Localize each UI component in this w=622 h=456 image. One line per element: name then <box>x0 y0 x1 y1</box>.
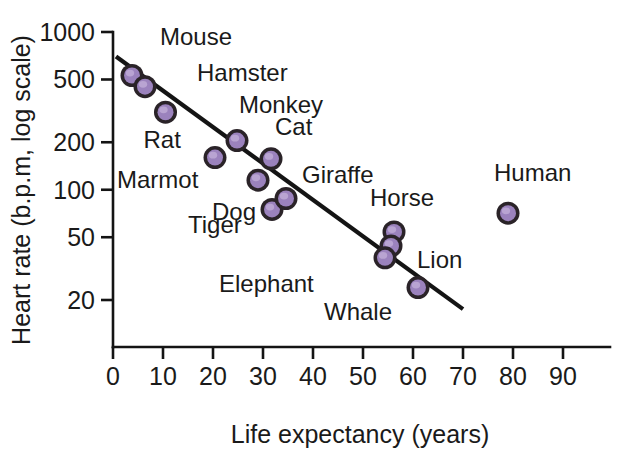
y-tick-label-500: 500 <box>53 65 95 93</box>
point-label-lion: Lion <box>417 246 462 273</box>
point-label-rat: Rat <box>144 126 182 153</box>
marker-highlight <box>126 70 134 77</box>
x-axis-title: Life expectancy (years) <box>231 420 489 448</box>
point-label-horse: Horse <box>370 184 434 211</box>
marker-highlight <box>280 193 288 200</box>
marker-highlight <box>502 207 510 214</box>
data-point-marmot <box>204 146 227 169</box>
plot-canvas: 10005002001005020 0102030405060708090 Mo… <box>0 0 622 456</box>
marker-highlight <box>231 135 239 142</box>
data-point-elephant <box>374 246 397 269</box>
data-point-dog <box>247 169 270 192</box>
y-tick-label-20: 20 <box>67 286 95 314</box>
point-label-human: Human <box>494 159 571 186</box>
y-tick-label-1000: 1000 <box>39 18 95 46</box>
x-axis-tick-labels: 0102030405060708090 <box>106 362 577 390</box>
marker-highlight <box>252 174 260 181</box>
x-tick-label-80: 80 <box>499 362 527 390</box>
marker-highlight <box>412 282 420 289</box>
point-label-whale: Whale <box>324 298 392 325</box>
x-tick-label-70: 70 <box>449 362 477 390</box>
x-tick-label-0: 0 <box>106 362 120 390</box>
y-axis-title: Heart rate (b.p.m, log scale) <box>7 35 35 345</box>
data-point-cat <box>260 147 283 170</box>
marker-highlight <box>265 153 273 160</box>
point-label-tiger: Tiger <box>188 211 242 238</box>
y-axis-tick-labels: 10005002001005020 <box>39 18 95 314</box>
y-tick-label-50: 50 <box>67 223 95 251</box>
scatter-chart-figure: 10005002001005020 0102030405060708090 Mo… <box>0 0 622 456</box>
data-point-monkey <box>226 129 249 152</box>
marker-highlight <box>379 252 387 259</box>
y-tick-label-100: 100 <box>53 176 95 204</box>
marker-highlight <box>139 81 147 88</box>
point-label-elephant: Elephant <box>219 270 314 297</box>
data-point-human <box>497 202 520 225</box>
x-tick-label-90: 90 <box>549 362 577 390</box>
data-point-giraffe <box>275 187 298 210</box>
point-label-hamster: Hamster <box>197 59 288 86</box>
point-label-mouse: Mouse <box>160 23 232 50</box>
x-tick-label-40: 40 <box>299 362 327 390</box>
marker-highlight <box>266 204 274 211</box>
point-label-cat: Cat <box>275 113 313 140</box>
y-tick-label-200: 200 <box>53 128 95 156</box>
marker-highlight <box>388 226 396 233</box>
marker-highlight <box>159 106 167 113</box>
marker-highlight <box>385 240 393 247</box>
data-point-whale <box>407 276 430 299</box>
point-label-marmot: Marmot <box>117 166 199 193</box>
x-tick-label-30: 30 <box>249 362 277 390</box>
x-tick-label-60: 60 <box>399 362 427 390</box>
marker-highlight <box>209 152 217 159</box>
data-point-labels: MouseHamsterRatMarmotMonkeyCatDogTigerGi… <box>117 23 571 324</box>
x-tick-label-10: 10 <box>149 362 177 390</box>
x-tick-label-50: 50 <box>349 362 377 390</box>
x-tick-label-20: 20 <box>199 362 227 390</box>
data-point-rat <box>154 101 177 124</box>
point-label-giraffe: Giraffe <box>302 161 374 188</box>
data-point-hamster <box>134 75 157 98</box>
